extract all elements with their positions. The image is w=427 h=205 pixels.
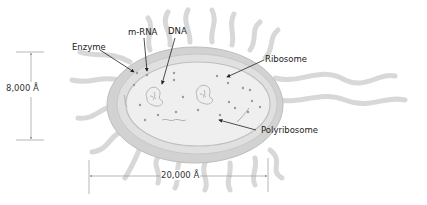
height-dimension-label: 8,000 Å (6, 83, 39, 93)
dna-label: DNA (168, 26, 187, 36)
ribosome-label: Ribosome (265, 54, 307, 64)
mrna-label: m-RNA (128, 27, 157, 37)
bacterial-cell-diagram (0, 0, 427, 205)
polyribosome-label: Polyribosome (261, 125, 318, 135)
width-dimension-label: 20,000 Å (161, 170, 199, 180)
enzyme-label: Enzyme (72, 42, 106, 52)
